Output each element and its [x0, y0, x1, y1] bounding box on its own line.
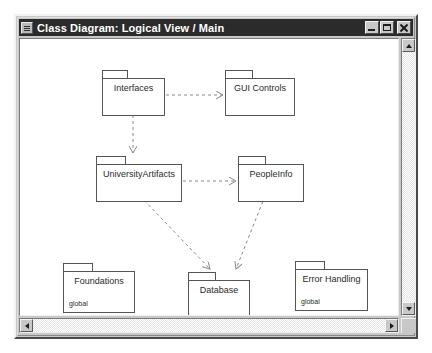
diagram-canvas-container[interactable]: InterfacesGUI ControlsUniversityArtifact…: [19, 38, 399, 316]
vertical-scrollbar[interactable]: [401, 38, 416, 316]
package-node-university-artifacts[interactable]: UniversityArtifacts: [96, 156, 182, 202]
class-diagram-window: Class Diagram: Logical View / Main: [14, 14, 418, 339]
scroll-left-button[interactable]: [20, 319, 33, 332]
package-body-database: Database: [188, 280, 250, 316]
chevron-down-icon: [406, 307, 412, 311]
package-label-university-artifacts: UniversityArtifacts: [97, 169, 181, 179]
package-label-database: Database: [189, 285, 249, 295]
chevron-left-icon: [25, 323, 29, 329]
title-bar[interactable]: Class Diagram: Logical View / Main: [19, 19, 413, 36]
package-label-foundations: Foundations: [64, 276, 134, 286]
maximize-icon: [383, 24, 391, 31]
package-node-error-handling[interactable]: Error Handlingglobal: [295, 261, 368, 311]
package-body-gui-controls: GUI Controls: [225, 78, 295, 116]
package-body-error-handling: Error Handlingglobal: [295, 269, 368, 311]
package-label-error-handling: Error Handling: [296, 274, 367, 284]
package-node-database[interactable]: Database: [188, 272, 250, 316]
minimize-icon: [368, 29, 375, 31]
package-stereotype-error-handling: global: [301, 298, 320, 305]
package-stereotype-foundations: global: [69, 300, 88, 307]
package-node-foundations[interactable]: Foundationsglobal: [63, 263, 135, 313]
package-label-interfaces: Interfaces: [103, 83, 164, 93]
chevron-up-icon: [406, 44, 412, 48]
package-node-gui-controls[interactable]: GUI Controls: [225, 70, 295, 116]
diagram-canvas[interactable]: InterfacesGUI ControlsUniversityArtifact…: [20, 39, 398, 315]
system-menu-icon[interactable]: [21, 22, 33, 34]
horizontal-scrollbar[interactable]: [19, 318, 399, 333]
package-body-university-artifacts: UniversityArtifacts: [96, 164, 182, 202]
scroll-right-button[interactable]: [385, 319, 398, 332]
resize-grip[interactable]: [401, 318, 416, 333]
scroll-down-button[interactable]: [402, 302, 415, 315]
edge-university-artifacts-to-database: [140, 196, 210, 269]
package-body-people-info: PeopleInfo: [238, 164, 304, 202]
package-label-gui-controls: GUI Controls: [226, 83, 294, 93]
minimize-button[interactable]: [365, 21, 379, 34]
screenshot-root: Class Diagram: Logical View / Main: [0, 0, 432, 353]
package-body-foundations: Foundationsglobal: [63, 271, 135, 313]
package-body-interfaces: Interfaces: [102, 78, 165, 116]
package-label-people-info: PeopleInfo: [239, 169, 303, 179]
package-node-interfaces[interactable]: Interfaces: [102, 70, 165, 116]
window-title: Class Diagram: Logical View / Main: [37, 22, 364, 34]
scroll-up-button[interactable]: [402, 39, 415, 52]
chevron-right-icon: [390, 323, 394, 329]
package-node-people-info[interactable]: PeopleInfo: [238, 156, 304, 202]
edge-people-info-to-database: [236, 196, 265, 269]
maximize-button[interactable]: [380, 21, 394, 34]
close-button[interactable]: [397, 21, 411, 34]
